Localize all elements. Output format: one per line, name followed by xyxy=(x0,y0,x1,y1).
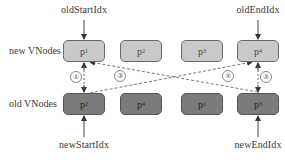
new-vnode-p1: p1 xyxy=(63,40,105,62)
arrows-layer xyxy=(0,0,285,160)
old-vnodes-label: old VNodes xyxy=(9,98,57,109)
step-3-badge: ③ xyxy=(114,70,126,82)
old-end-idx-label: oldEndIdx xyxy=(236,4,279,15)
old-vnode-p4: p4 xyxy=(120,93,162,115)
old-vnode-p3: p3 xyxy=(237,93,279,115)
diff-diagram: oldStartIdx oldEndIdx newStartIdx newEnd… xyxy=(0,0,285,160)
new-vnode-p4: p4 xyxy=(237,40,279,62)
new-end-idx-label: newEndIdx xyxy=(235,139,282,150)
old-vnode-p2: p2 xyxy=(63,93,105,115)
step-1-badge: ① xyxy=(70,71,82,83)
step-4-badge: ④ xyxy=(222,70,234,82)
new-vnode-p2: p2 xyxy=(120,40,162,62)
old-start-idx-label: oldStartIdx xyxy=(61,4,107,15)
new-vnode-p3: p3 xyxy=(181,40,223,62)
new-vnodes-label: new VNodes xyxy=(9,45,61,56)
new-start-idx-label: newStartIdx xyxy=(59,139,109,150)
step-2-badge: ② xyxy=(260,71,272,83)
old-vnode-p1: p1 xyxy=(181,93,223,115)
